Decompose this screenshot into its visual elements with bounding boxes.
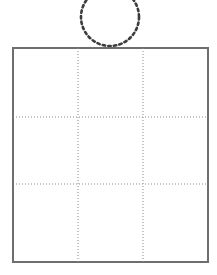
diagram-canvas (0, 0, 217, 275)
diagram-svg (0, 0, 217, 275)
nine-cell-grid-border (13, 48, 208, 262)
